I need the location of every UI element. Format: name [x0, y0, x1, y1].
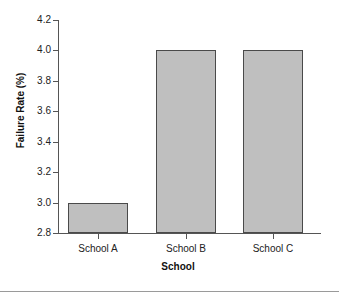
y-axis-tick-label-text: 3.8: [21, 76, 51, 86]
y-axis-tick-label-text: 4.0: [21, 45, 51, 55]
y-axis-tick: [53, 50, 58, 51]
y-axis-tick-label-text: 4.2: [21, 15, 51, 25]
x-axis-tick: [98, 234, 99, 239]
x-axis-tick: [186, 234, 187, 239]
y-axis-tick: [53, 142, 58, 143]
y-axis-tick: [53, 203, 58, 204]
bar-school-b: [156, 50, 216, 233]
y-axis-tick-label: 4.2: [18, 15, 51, 25]
y-axis-tick-label-text: 3.6: [21, 106, 51, 116]
y-axis-tick-label-text: 2.8: [21, 228, 51, 238]
bottom-divider: [0, 291, 339, 292]
x-axis-tick: [273, 234, 274, 239]
y-axis-tick-label-text: 3.0: [21, 198, 51, 208]
y-axis-tick: [53, 233, 58, 234]
y-axis-tick-label-text: 3.4: [21, 137, 51, 147]
y-axis-tick-label: 2.8: [18, 228, 51, 238]
y-axis-tick-label: 3.0: [18, 198, 51, 208]
x-axis-category-label: School A: [54, 243, 142, 255]
y-axis-title: Failure Rate (%): [15, 51, 26, 171]
x-axis-category-label: School C: [229, 243, 317, 255]
y-axis-tick: [53, 111, 58, 112]
y-axis-tick: [53, 20, 58, 21]
y-axis-tick: [53, 81, 58, 82]
bar-school-a: [68, 203, 128, 233]
y-axis-line: [58, 20, 59, 233]
x-axis-title: School: [58, 261, 298, 272]
y-axis-tick: [53, 172, 58, 173]
bar-chart: 4.24.03.83.63.43.23.02.8 School ASchool …: [0, 0, 339, 296]
x-axis-category-label: School B: [142, 243, 230, 255]
y-axis-tick-label-text: 3.2: [21, 167, 51, 177]
bar-school-c: [243, 50, 303, 233]
chart-page: 4.24.03.83.63.43.23.02.8 School ASchool …: [0, 0, 339, 296]
